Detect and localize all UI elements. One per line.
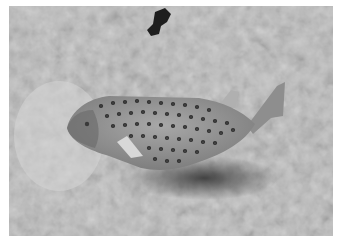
fish-eye: [85, 122, 89, 126]
underwater-photo: [9, 6, 333, 236]
photo-canvas: [9, 6, 333, 236]
